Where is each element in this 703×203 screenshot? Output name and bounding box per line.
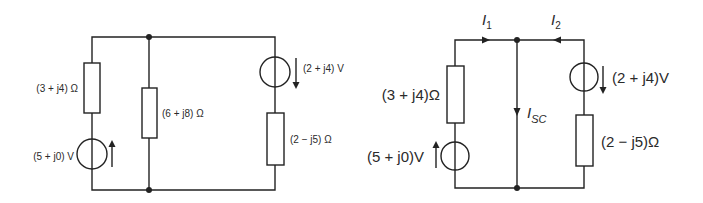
voltage-source-5-j0-label: (5 + j0)V xyxy=(367,148,424,165)
right-circuit: I1 I2 ISC (3 + j4)Ω (5 + j0)V (2 + j4)V … xyxy=(367,11,669,191)
resistor-6-j8-icon xyxy=(142,88,157,138)
resistor-3-j4-label: (3 + j4) Ω xyxy=(36,83,78,94)
left-circuit-top-wire xyxy=(92,37,275,63)
circuit-diagram: (3 + j4) Ω (5 + j0) V (6 + j8) Ω (2 + j4… xyxy=(0,0,703,203)
current-i2-arrow-left-icon xyxy=(553,37,561,44)
current-isc-label: ISC xyxy=(527,104,547,125)
right-circuit-bottom-wire xyxy=(455,166,584,188)
right-circuit-top-wire xyxy=(455,40,584,66)
voltage-source-2-j4-label: (2 + j4) V xyxy=(303,63,344,74)
voltage-source-2-j4-label: (2 + j4)V xyxy=(612,69,669,86)
resistor-2-j5-icon xyxy=(576,115,593,166)
resistor-3-j4-label: (3 + j4)Ω xyxy=(382,86,440,103)
current-isc-arrow-down-icon xyxy=(514,108,521,116)
arrow-up-icon xyxy=(109,140,116,167)
voltage-source-5-j0-label: (5 + j0) V xyxy=(33,151,74,162)
resistor-2-j5-label: (2 − j5)Ω xyxy=(601,133,659,150)
current-i1-label: I1 xyxy=(482,11,492,31)
resistor-3-j4-icon xyxy=(84,63,100,113)
resistor-2-j5-label: (2 − j5) Ω xyxy=(290,134,332,145)
current-i1-arrow-right-icon xyxy=(482,37,490,44)
left-circuit: (3 + j4) Ω (5 + j0) V (6 + j8) Ω (2 + j4… xyxy=(33,34,344,193)
resistor-2-j5-icon xyxy=(267,113,284,165)
resistor-6-j8-label: (6 + j8) Ω xyxy=(162,108,204,119)
left-circuit-bottom-wire xyxy=(92,165,275,190)
current-i2-label: I2 xyxy=(551,11,561,31)
arrow-down-icon xyxy=(600,66,607,94)
junction-dot-bottom xyxy=(146,187,152,193)
arrow-up-icon xyxy=(433,141,440,168)
junction-dot-top xyxy=(514,37,520,43)
resistor-3-j4-icon xyxy=(447,66,464,123)
junction-dot-top xyxy=(146,34,152,40)
arrow-down-icon xyxy=(293,58,300,89)
junction-dot-bottom xyxy=(514,185,520,191)
